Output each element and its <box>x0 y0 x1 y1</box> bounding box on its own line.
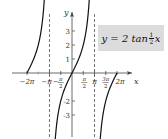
fraction-denominator: 2 <box>149 39 153 45</box>
y-tick-label: -3 <box>63 112 70 120</box>
y-tick-label: -2 <box>63 98 70 106</box>
y-axis-label: y <box>63 8 69 17</box>
x-tick-label-minus: − <box>53 78 59 86</box>
equation-label: y = 2 tan 1 2 x <box>98 25 164 51</box>
x-tick-label: −π <box>41 78 52 86</box>
y-tick-label: 1 <box>66 56 70 64</box>
x-tick-label-numerator: π <box>58 76 63 82</box>
x-tick-label-numerator: π <box>81 76 86 82</box>
x-tick-label-denominator: 2 <box>83 83 87 89</box>
x-tick-label-denominator: 2 <box>59 83 63 89</box>
x-tick-label-denominator: 2 <box>104 83 108 89</box>
x-tick-label: π <box>91 78 97 86</box>
tangent-branch <box>27 0 47 73</box>
equation-prefix: y = 2 tan <box>102 33 148 44</box>
x-tick-label: 2π <box>114 78 124 86</box>
y-tick-label: 3 <box>66 28 70 36</box>
x-tick-label-numerator: 3π <box>102 76 109 82</box>
fraction-half: 1 2 <box>149 32 154 45</box>
y-tick-label: 2 <box>66 42 70 50</box>
x-tick-label: −2π <box>20 78 35 86</box>
equation-variable: x <box>155 33 161 44</box>
tangent-graph: 321-2-3−2π−ππ2π−π2π23π2xy <box>0 0 168 139</box>
x-axis-label: x <box>134 77 139 86</box>
